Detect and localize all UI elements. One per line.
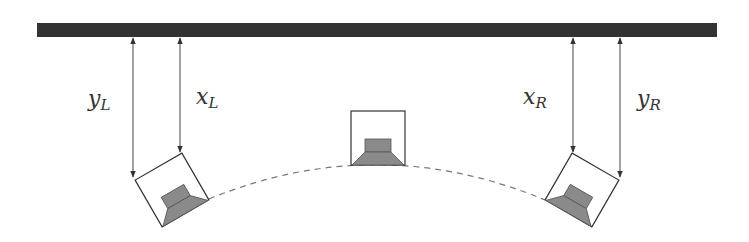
label-y-right: yR (636, 86, 661, 114)
speaker-placement-diagram: yL xL xR yR (0, 0, 749, 242)
speaker-center (351, 111, 405, 165)
speaker-magnet-icon (365, 139, 391, 152)
label-y-left: yL (87, 86, 110, 114)
label-x-left: xL (196, 84, 218, 112)
wall-bar (37, 23, 717, 37)
label-x-right: xR (523, 84, 547, 112)
speaker-right (545, 153, 619, 227)
listening-arc (209, 165, 545, 200)
speaker-left (135, 153, 209, 227)
